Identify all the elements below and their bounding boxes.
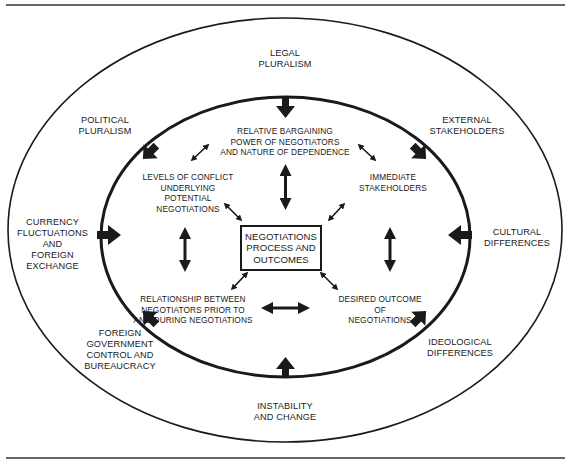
arrow-diagonal-icon (406, 139, 434, 167)
outer-factor-cultural-differences: CULTURAL DIFFERENCES (467, 227, 567, 249)
arrow-down-icon (276, 97, 295, 118)
outer-factor-foreign-government: FOREIGN GOVERNMENT CONTROL AND BUREAUCRA… (65, 328, 175, 372)
outer-factor-instability: INSTABILITY AND CHANGE (235, 401, 335, 423)
inner-factor-desired-outcome: DESIRED OUTCOME OF NEGOTIATIONS (325, 294, 435, 326)
outer-factor-ideological-differences: IDEOLOGICAL DIFFERENCES (405, 337, 515, 359)
double-arrow-diagonal-icon (233, 274, 246, 288)
inner-factor-relationship: RELATIONSHIP BETWEEN NEGOTIATORS PRIOR T… (118, 294, 268, 326)
inner-factor-bargaining: RELATIVE BARGAINING POWER OF NEGOTIATORS… (205, 126, 365, 158)
outer-factor-currency: CURRENCY FLUCTUATIONS AND FOREIGN EXCHAN… (5, 217, 100, 272)
double-arrow-diagonal-icon (322, 274, 336, 288)
arrow-up-icon (276, 357, 295, 378)
outer-factor-political-pluralism: POLITICAL PLURALISM (55, 115, 155, 137)
center-node-negotiations: NEGOTIATIONS PROCESS AND OUTCOMES (240, 225, 322, 271)
outer-factor-legal-pluralism: LEGAL PLURALISM (235, 48, 335, 70)
outer-factor-external-stakeholders: EXTERNAL STAKEHOLDERS (412, 115, 522, 137)
inner-factor-immediate-stakeholders: IMMEDIATE STAKEHOLDERS (343, 172, 443, 193)
double-arrow-diagonal-icon (330, 205, 343, 219)
inner-factor-conflict: LEVELS OF CONFLICT UNDERLYING POTENTIAL … (128, 172, 248, 214)
